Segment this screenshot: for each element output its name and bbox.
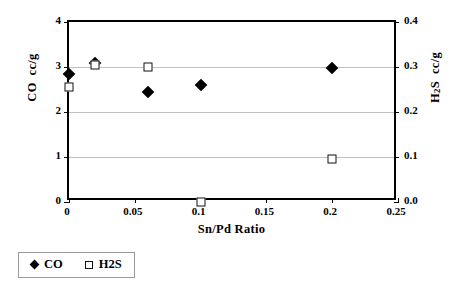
gridline-horizontal — [69, 157, 394, 158]
data-point-h2s — [65, 83, 74, 92]
x-axis-tick — [332, 198, 333, 203]
y-axis-right-tick — [394, 157, 399, 158]
chart-legend: COH2S — [18, 252, 135, 278]
y-axis-left-tick — [64, 157, 69, 158]
y-axis-right-title-subscript: 2 — [432, 88, 442, 93]
data-point-h2s — [91, 60, 100, 69]
x-axis-tick — [69, 198, 70, 203]
x-axis-tick-label: 0.25 — [374, 206, 418, 217]
y-axis-left-title: CO cc/g — [25, 18, 40, 138]
y-axis-right-title-main-b: S — [428, 81, 442, 88]
data-point-co — [63, 67, 76, 80]
y-axis-right-title-main-a: H — [428, 93, 442, 103]
legend-item-label: H2S — [99, 257, 122, 272]
x-axis-tick — [266, 198, 267, 203]
data-point-co — [194, 79, 207, 92]
x-axis-tick-label: 0.05 — [111, 206, 155, 217]
data-point-co — [142, 85, 155, 98]
y-axis-right-title: H2S cc/g — [428, 18, 443, 138]
legend-item-co[interactable]: CO — [31, 257, 63, 272]
x-axis-tick-label: 0.1 — [177, 206, 221, 217]
legend-item-h2s[interactable]: H2S — [85, 257, 122, 272]
y-axis-right-tick — [394, 67, 399, 68]
y-axis-left-title-main: CO — [25, 82, 39, 101]
gridline-horizontal — [69, 67, 394, 68]
y-axis-left-tick-label: 1 — [31, 150, 61, 161]
x-axis-title: Sn/Pd Ratio — [67, 222, 396, 237]
diamond-marker-icon — [30, 260, 40, 270]
x-axis-tick-label: 0.2 — [308, 206, 352, 217]
plot-area — [67, 20, 396, 200]
x-axis-tick-label: 0 — [45, 206, 89, 217]
y-axis-right-tick — [394, 22, 399, 23]
square-marker-icon — [85, 261, 93, 269]
data-point-co — [326, 62, 339, 75]
y-axis-right-tick — [394, 112, 399, 113]
x-axis-tick-labels: 00.050.10.150.20.25 — [67, 206, 396, 222]
y-axis-right-tick-label: 0.0 — [404, 195, 438, 206]
x-axis-tick — [398, 198, 399, 203]
x-axis-tick — [135, 198, 136, 203]
x-axis-tick-label: 0.15 — [242, 206, 286, 217]
data-point-h2s — [328, 155, 337, 164]
y-axis-left-tick — [64, 22, 69, 23]
y-axis-right-title-unit: cc/g — [428, 52, 442, 74]
y-axis-right-tick-label: 0.1 — [404, 150, 438, 161]
y-axis-left-tick — [64, 112, 69, 113]
y-axis-left-tick-label: 0 — [31, 195, 61, 206]
legend-item-label: CO — [44, 257, 63, 272]
gridline-horizontal — [69, 112, 394, 113]
chart-figure: 01234 0.00.10.20.30.4 00.050.10.150.20.2… — [0, 0, 465, 295]
data-point-h2s — [143, 63, 152, 72]
y-axis-left-title-unit: cc/g — [25, 53, 39, 75]
